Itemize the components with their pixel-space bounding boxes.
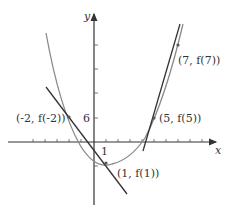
point-label-7: (7, f(7)) <box>178 54 220 67</box>
parabola-curve <box>46 24 183 165</box>
point-label-1: (1, f(1)) <box>117 167 159 180</box>
point-neg2 <box>67 115 70 118</box>
point-1 <box>104 161 107 164</box>
y-axis-label: y <box>83 10 91 23</box>
tangent-line-right <box>143 24 180 151</box>
y-tick-label: 6 <box>83 112 90 125</box>
x-tick-label: 1 <box>101 145 108 158</box>
x-axis-label: x <box>215 144 222 157</box>
point-5 <box>152 116 155 119</box>
point-label-neg2: (-2, f(-2)) <box>16 112 66 125</box>
tangent-line-left <box>46 87 127 194</box>
point-7 <box>176 43 179 46</box>
point-label-5: (5, f(5)) <box>159 112 201 125</box>
function-graph: x y 1 6 (-2, f(-2)) (1, f(1)) (5, f(5)) … <box>0 0 225 209</box>
